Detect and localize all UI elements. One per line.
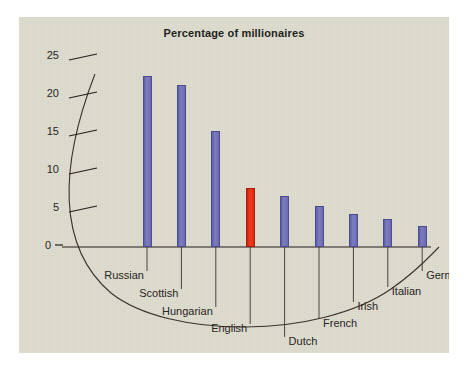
y-axis-tick-label: 25: [33, 49, 59, 61]
y-axis-tick-label: 20: [33, 87, 59, 99]
x-axis-label-german: German: [426, 269, 449, 281]
y-tick-marks: [55, 54, 97, 245]
chart-svg-layer: [19, 17, 449, 353]
bar-french[interactable]: [315, 206, 324, 247]
y-axis-tick-label: 0: [25, 239, 51, 251]
bar-irish[interactable]: [349, 214, 358, 247]
x-axis-label-irish: Irish: [357, 300, 378, 312]
chart-panel: Percentage of millionaires 0510152025 Ru…: [19, 17, 449, 353]
bar-german[interactable]: [418, 226, 427, 247]
bar-hungarian[interactable]: [211, 131, 220, 247]
y-axis-tick-label: 15: [33, 125, 59, 137]
x-axis-label-dutch: Dutch: [289, 335, 318, 347]
x-axis-label-italian: Italian: [392, 285, 421, 297]
x-axis-label-scottish: Scottish: [139, 287, 178, 299]
bar-english[interactable]: [246, 188, 255, 247]
y-axis-tick-label: 5: [33, 201, 59, 213]
bar-scottish[interactable]: [177, 85, 186, 247]
x-axis-label-french: French: [323, 317, 357, 329]
x-axis-label-english: English: [211, 322, 247, 334]
category-leader-lines: [147, 247, 422, 337]
y-axis-tick-label: 10: [33, 163, 59, 175]
bar-russian[interactable]: [143, 76, 152, 247]
x-axis-label-hungarian: Hungarian: [162, 305, 213, 317]
figure-container: Percentage of millionaires 0510152025 Ru…: [0, 0, 466, 372]
bar-italian[interactable]: [383, 219, 392, 247]
bar-dutch[interactable]: [280, 196, 289, 247]
x-axis-label-russian: Russian: [104, 269, 144, 281]
